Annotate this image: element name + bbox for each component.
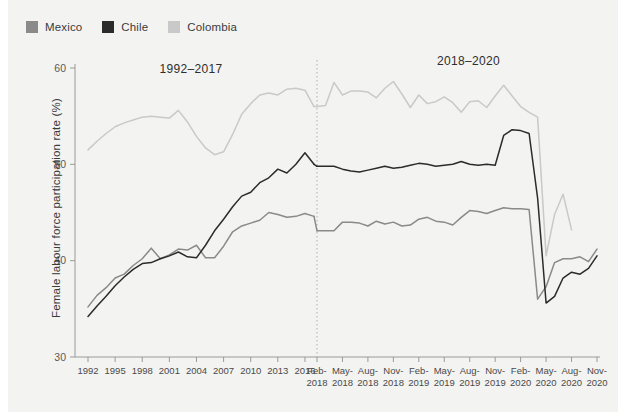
x-tick-label: 2013 (267, 365, 288, 376)
x-tick-label-year: 2019 (434, 377, 455, 388)
x-tick-label: Feb- (307, 365, 327, 376)
series-bridge-mexico (314, 216, 317, 230)
x-tick-label: Nov- (485, 365, 505, 376)
series-line-mexico-left (88, 213, 314, 307)
x-tick-label: Aug- (562, 365, 582, 376)
series-line-colombia-left (88, 88, 314, 154)
x-tick-label: May- (332, 365, 353, 376)
x-tick-label-year: 2020 (536, 377, 557, 388)
x-tick-label-year: 2018 (383, 377, 404, 388)
series-line-mexico-right (317, 208, 597, 300)
series-line-chile-right (317, 130, 597, 303)
series-layer (88, 81, 597, 316)
chart-legend: Mexico Chile Colombia (26, 21, 257, 33)
legend-swatch-colombia (168, 21, 180, 33)
x-tick-label: 1992 (77, 365, 98, 376)
x-tick-label: Nov- (587, 365, 607, 376)
legend-swatch-mexico (26, 21, 38, 33)
y-axis-title: Female labour force participation rate (… (50, 58, 62, 358)
x-tick-label: May- (536, 365, 557, 376)
x-tick-label: 2004 (186, 365, 207, 376)
x-tick-label-year: 2018 (357, 377, 378, 388)
x-tick-label-year: 2018 (332, 377, 353, 388)
annotation-right-period: 2018–2020 (437, 54, 500, 68)
chart-plot: 3040506019921995199820012004200720102013… (0, 0, 633, 412)
x-tick-label: 1998 (132, 365, 153, 376)
series-line-chile-left (88, 153, 314, 317)
x-tick-label-year: 2020 (586, 377, 607, 388)
x-tick-label: May- (434, 365, 455, 376)
legend-swatch-chile (102, 21, 114, 33)
legend-label-chile: Chile (121, 21, 148, 33)
x-tick-label: Feb- (511, 365, 531, 376)
x-tick-label: Aug- (358, 365, 378, 376)
x-tick-label-year: 2018 (306, 377, 327, 388)
x-tick-label: 1995 (105, 365, 126, 376)
legend-item-mexico: Mexico (26, 21, 82, 33)
chart-figure: Mexico Chile Colombia Female labour forc… (0, 0, 633, 412)
legend-item-chile: Chile (102, 21, 148, 33)
x-tick-label: Nov- (383, 365, 403, 376)
x-tick-label: Feb- (409, 365, 429, 376)
x-tick-label: 2007 (213, 365, 234, 376)
x-tick-label-year: 2019 (459, 377, 480, 388)
legend-label-colombia: Colombia (187, 21, 237, 33)
x-tick-label-year: 2020 (510, 377, 531, 388)
legend-label-mexico: Mexico (45, 21, 82, 33)
annotation-left-period: 1992–2017 (160, 62, 223, 76)
x-tick-label: Aug- (460, 365, 480, 376)
x-tick-label-year: 2020 (561, 377, 582, 388)
x-tick-label-year: 2019 (485, 377, 506, 388)
x-tick-label: 2010 (240, 365, 261, 376)
x-tick-label-year: 2019 (408, 377, 429, 388)
legend-item-colombia: Colombia (168, 21, 237, 33)
x-tick-label: 2001 (159, 365, 180, 376)
annotation-layer: 1992–20172018–2020 (160, 54, 500, 76)
